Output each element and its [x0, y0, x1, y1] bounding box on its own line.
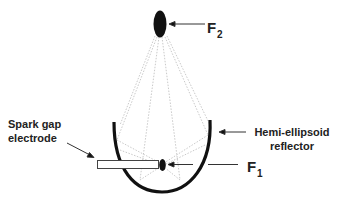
ray: [167, 36, 210, 125]
reflector-arrowhead-icon: [219, 130, 225, 135]
diagram: F 2 F 1 Spark gap electrode Hemi-ellipso…: [0, 0, 344, 199]
ray: [120, 36, 155, 125]
diagram-canvas: F 2 F 1 Spark gap electrode Hemi-ellipso…: [0, 0, 344, 199]
f1-focal-point: [159, 159, 166, 171]
f1-label-subscript: 1: [257, 168, 263, 179]
ray: [164, 167, 180, 180]
spark-gap-label-line1: Spark gap: [8, 118, 61, 130]
reflector-label-line1: Hemi-ellipsoid: [254, 126, 329, 138]
spark-gap-label-line2: electrode: [8, 132, 57, 144]
reflector-label-line2: reflector: [270, 140, 315, 152]
f2-label: F: [207, 19, 216, 36]
ray: [117, 37, 157, 140]
electrode-arrowhead-icon: [87, 153, 94, 158]
ray: [164, 145, 205, 165]
electrode-arrow-line: [67, 143, 90, 155]
f2-label-subscript: 2: [217, 29, 223, 40]
ray: [165, 37, 208, 135]
hemi-ellipsoid-reflector: [114, 120, 210, 192]
f2-focal-point: [154, 11, 167, 38]
f1-label: F: [247, 158, 256, 175]
wave-rays: [117, 36, 210, 180]
spark-gap-electrode: [98, 161, 159, 169]
ray: [164, 135, 208, 163]
f2-arrowhead-icon: [169, 22, 175, 27]
